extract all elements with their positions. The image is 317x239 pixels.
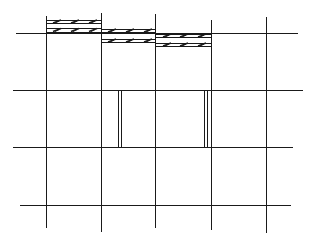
diagram-svg: [0, 0, 317, 239]
structural-grid-diagram: [0, 0, 317, 239]
hatched-band: [101, 29, 155, 43]
horizontal-grid-lines: [13, 34, 303, 206]
double-post-lines: [119, 91, 208, 147]
hatched-band: [155, 34, 211, 47]
hatched-band: [46, 20, 101, 33]
